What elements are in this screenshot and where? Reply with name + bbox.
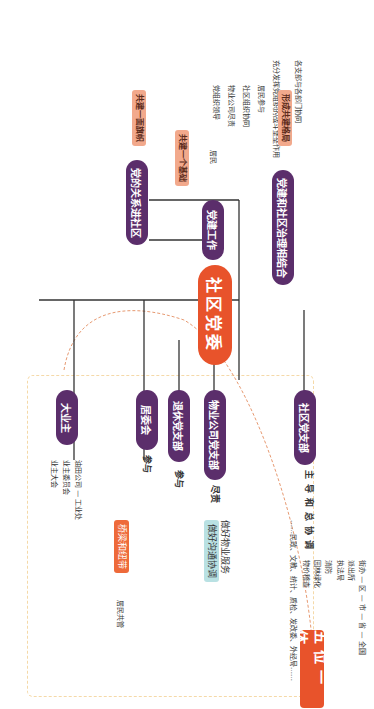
item-police: 派出所 bbox=[347, 560, 357, 581]
item-owners-committee: 业主委员会 bbox=[62, 460, 72, 495]
item-property-responsible: 物业公司尽责 bbox=[227, 85, 237, 127]
branch-residents-committee[interactable]: 居委会 bbox=[136, 390, 158, 450]
root-node[interactable]: 社区党委 bbox=[198, 265, 232, 365]
relation-responsible: 尽责 bbox=[209, 485, 222, 503]
item-oilfield: 油田公司 — 工业处 bbox=[74, 460, 84, 520]
item-party-leadership: 党组织领导 bbox=[212, 85, 222, 120]
relation-participate-2: 参与 bbox=[141, 455, 154, 473]
item-resident-participation: 居民参与 bbox=[257, 85, 267, 113]
item-owners-assembly: 业主大会 bbox=[50, 460, 60, 488]
sub-residents: 居民 bbox=[209, 150, 219, 164]
relation-participate-1: 参与 bbox=[173, 470, 186, 488]
tag-communication: 做好沟通协调 bbox=[204, 520, 219, 582]
branch-party-into-community[interactable]: 党的关系进社区 bbox=[126, 160, 148, 245]
relation-lead-coordinate: 主导和总协调 bbox=[303, 470, 316, 554]
branch-property-company[interactable]: 物业公司党支部 bbox=[204, 390, 226, 480]
tag-co-build-pattern: 形成共建格局 bbox=[278, 90, 292, 146]
item-branch-coordination: 各支部与各部门协同 bbox=[294, 60, 304, 123]
branch-governance-integration[interactable]: 党建和社区治理相结合 bbox=[272, 170, 294, 285]
tag-one-flag: 共建一面旗帜 bbox=[132, 90, 146, 146]
item-enforcement: 执法局 bbox=[336, 560, 346, 581]
item-fire: 消防 bbox=[324, 560, 334, 574]
tag-one-foundation: 共建一个基础 bbox=[175, 130, 189, 186]
item-landscaping: 园林绿化 bbox=[313, 560, 323, 588]
item-others: ……民政、文教、统计、质检、发改委、外经局…… bbox=[289, 520, 299, 681]
item-price-inspection: 物价稽查 bbox=[302, 560, 312, 588]
item-resident-comanage: 居民共管 bbox=[116, 600, 126, 628]
item-community-collab: 社区组织协同 bbox=[242, 85, 252, 127]
branch-major-owner[interactable]: 大业主 bbox=[56, 390, 78, 445]
item-street-office: 街办 — 区 — 市 — 省 — 全国 bbox=[358, 560, 368, 655]
branch-community-party-branch[interactable]: 社区党支部 bbox=[294, 390, 316, 465]
mind-map-canvas: 社区党委 五位一体 社区党支部 主导和总协调 街办 — 区 — 市 — 省 — … bbox=[0, 0, 374, 709]
item-property-service: 做好物业服务 bbox=[219, 520, 232, 574]
tag-bridge: 桥梁和纽带 bbox=[114, 520, 129, 573]
branch-retired-party[interactable]: 退休党支部 bbox=[168, 390, 190, 462]
connector-lines bbox=[0, 0, 374, 709]
five-in-one-banner: 五位一体 bbox=[300, 630, 324, 708]
branch-party-building[interactable]: 党建工作 bbox=[202, 200, 224, 260]
